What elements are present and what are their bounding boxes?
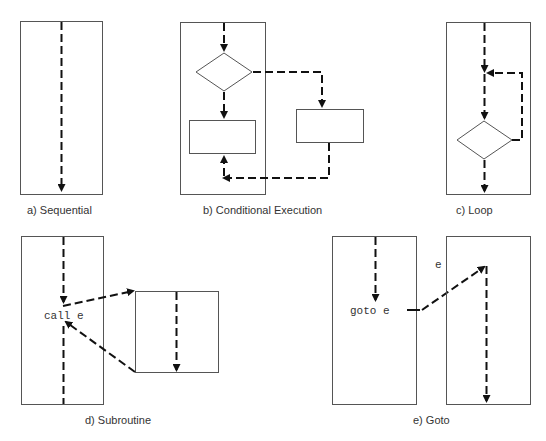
target-box: [447, 237, 531, 405]
caption-loop: c) Loop: [456, 204, 493, 216]
target-label: e: [435, 259, 442, 271]
caption-conditional: b) Conditional Execution: [203, 204, 322, 216]
return-arrow-icon: [224, 143, 329, 178]
caption-subroutine: d) Subroutine: [85, 414, 151, 426]
caption-sequential: a) Sequential: [27, 204, 92, 216]
caption-goto: e) Goto: [413, 414, 450, 426]
return-arrow-icon: [66, 322, 135, 372]
panel-loop: c) Loop: [447, 23, 531, 217]
control-flow-figure: a) Sequential b) Conditional Execution c…: [0, 0, 546, 441]
loop-condition-diamond: [457, 121, 512, 159]
call-arrow-icon: [63, 291, 133, 306]
panel-conditional: b) Conditional Execution: [181, 23, 364, 217]
else-block: [297, 110, 364, 143]
branch-arrow-icon: [253, 72, 322, 106]
program-box: [447, 23, 531, 195]
panel-sequential: a) Sequential: [21, 22, 103, 217]
panel-subroutine: call e d) Subroutine: [22, 237, 219, 427]
goto-label: goto e: [350, 305, 390, 317]
call-label: call e: [44, 310, 84, 322]
decision-diamond: [196, 53, 252, 91]
panel-goto: goto e e e) Goto: [333, 237, 531, 427]
then-block: [190, 121, 256, 154]
loop-back-arrow-icon: [488, 73, 522, 140]
jump-arrow-icon: [422, 267, 484, 310]
